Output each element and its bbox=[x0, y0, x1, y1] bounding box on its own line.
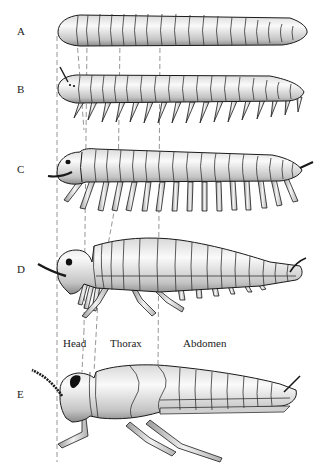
stage-a-worm bbox=[58, 14, 307, 46]
stage-label-c: C bbox=[17, 163, 24, 175]
region-label-head: Head bbox=[63, 337, 86, 349]
stage-label-d: D bbox=[17, 263, 25, 275]
stage-label-a: A bbox=[17, 25, 25, 37]
legs bbox=[58, 418, 222, 462]
stage-c-myriapod bbox=[48, 149, 313, 211]
antenna bbox=[32, 370, 62, 396]
stage-b-legged-worm bbox=[58, 67, 304, 123]
stage-label-e: E bbox=[17, 388, 24, 400]
region-label-thorax: Thorax bbox=[110, 337, 142, 349]
stage-e-insect bbox=[32, 365, 300, 462]
stage-label-b: B bbox=[17, 83, 24, 95]
region-label-abdomen: Abdomen bbox=[183, 337, 226, 349]
segmentation-diagram bbox=[0, 0, 320, 470]
stage-d-proto-insect bbox=[38, 238, 306, 318]
legs bbox=[64, 178, 298, 211]
